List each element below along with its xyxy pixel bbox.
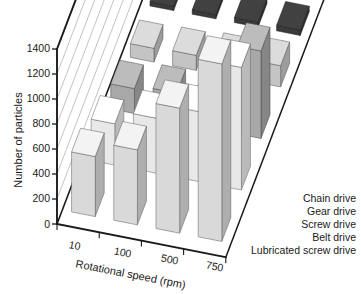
bar-front-face (198, 59, 222, 241)
y-tick-label: 600 (32, 142, 50, 154)
bar[interactable] (72, 128, 105, 216)
bar-side-face (241, 44, 250, 190)
y-axis-title: Number of particles (12, 92, 24, 188)
y-tick-label: 0 (44, 218, 50, 230)
legend-item-screw-drive[interactable]: Screw drive (301, 218, 356, 230)
bar-front-face (72, 152, 96, 217)
y-tick-label: 1400 (27, 42, 51, 54)
chart-scene (52, 0, 342, 263)
y-tick-label: 1200 (27, 67, 51, 79)
bar[interactable] (198, 36, 231, 242)
bar[interactable] (156, 80, 189, 233)
legend-item-gear-drive[interactable]: Gear drive (307, 205, 356, 217)
y-tick-label: 800 (32, 117, 50, 129)
legend-item-chain-drive[interactable]: Chain drive (303, 192, 356, 204)
chart-figure: 1400 1200 1000 800 600 400 200 0 Number … (0, 0, 361, 294)
bar-chart-3d: 1400 1200 1000 800 600 400 200 0 Number … (0, 0, 361, 294)
y-axis-tick-labels: 1400 1200 1000 800 600 400 200 0 (27, 42, 51, 230)
x-tick-label: 500 (160, 252, 180, 267)
x-tick-label: 750 (205, 259, 225, 274)
bar-front-face (114, 145, 138, 225)
y-tick-label: 1000 (27, 92, 51, 104)
bar-side-face (222, 40, 231, 241)
bar-front-face (156, 104, 180, 234)
legend-item-lubricated-screw-drive[interactable]: Lubricated screw drive (251, 244, 356, 256)
bar[interactable] (114, 122, 147, 225)
bar-side-face (180, 84, 189, 233)
x-tick-label: 100 (113, 245, 133, 260)
x-tick-label: 10 (68, 238, 82, 252)
y-tick-label: 400 (32, 167, 50, 179)
y-tick-label: 200 (32, 192, 50, 204)
legend: Chain drive Gear drive Screw drive Belt … (251, 192, 356, 256)
legend-item-belt-drive[interactable]: Belt drive (312, 231, 356, 243)
